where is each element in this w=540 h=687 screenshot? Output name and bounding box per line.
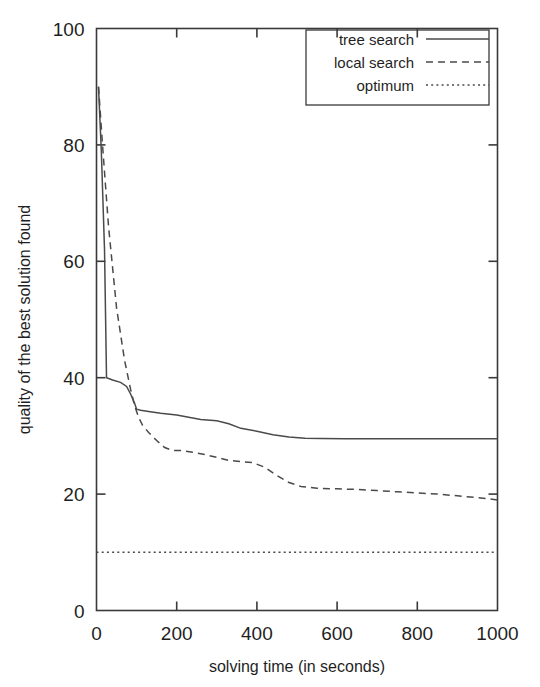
y-tick-label-0: 0 <box>74 601 85 622</box>
x-tick-label-1000: 1000 <box>476 623 518 644</box>
x-tick-label-600: 600 <box>321 623 353 644</box>
legend-label-optimum: optimum <box>356 77 414 94</box>
y-tick-label-20: 20 <box>63 484 84 505</box>
line-chart: 02004006008001000020406080100solving tim… <box>0 0 540 687</box>
y-tick-label-60: 60 <box>63 251 84 272</box>
legend-label-local-search: local search <box>334 54 414 71</box>
chart-figure: 02004006008001000020406080100solving tim… <box>0 0 540 687</box>
plot-frame <box>97 29 498 611</box>
x-tick-label-200: 200 <box>161 623 193 644</box>
x-tick-label-800: 800 <box>401 623 433 644</box>
y-tick-label-80: 80 <box>63 135 84 156</box>
x-tick-label-400: 400 <box>241 623 273 644</box>
y-axis-title: quality of the best solution found <box>16 205 33 435</box>
y-tick-label-100: 100 <box>53 19 85 40</box>
x-axis-title: solving time (in seconds) <box>209 658 385 675</box>
x-tick-label-0: 0 <box>91 623 102 644</box>
series-line-tree-search <box>99 87 498 439</box>
y-tick-label-40: 40 <box>63 368 84 389</box>
legend-label-tree-search: tree search <box>339 31 414 48</box>
